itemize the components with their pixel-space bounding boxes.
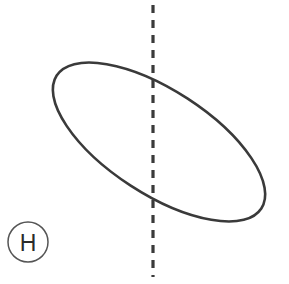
figure-canvas: H (0, 0, 289, 284)
figure-svg: H (0, 0, 289, 284)
ellipse-shape-group (28, 32, 289, 252)
ellipse-outline (28, 32, 289, 252)
badge-letter-label: H (20, 230, 37, 256)
option-badge: H (8, 222, 48, 262)
